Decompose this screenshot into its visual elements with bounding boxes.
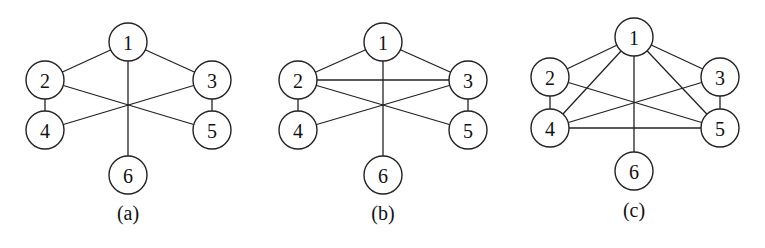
- node-label: 5: [715, 118, 725, 140]
- node-label: 6: [629, 161, 639, 183]
- graph-caption: (c): [623, 199, 645, 222]
- node-5: 5: [701, 109, 739, 147]
- node-1: 1: [364, 23, 402, 61]
- node-2: 2: [531, 58, 569, 96]
- node-label: 6: [378, 165, 388, 187]
- graph-a: 123456(a): [26, 23, 231, 225]
- node-label: 1: [629, 27, 639, 49]
- node-label: 3: [715, 67, 725, 89]
- node-3: 3: [449, 61, 487, 99]
- node-label: 4: [293, 120, 303, 142]
- node-label: 1: [378, 32, 388, 54]
- node-6: 6: [615, 152, 653, 190]
- node-label: 3: [207, 70, 217, 92]
- node-4: 4: [531, 109, 569, 147]
- graph-c: 123456(c): [531, 18, 739, 222]
- node-6: 6: [364, 156, 402, 194]
- node-5: 5: [449, 111, 487, 149]
- node-label: 2: [40, 70, 50, 92]
- node-label: 4: [40, 120, 50, 142]
- graph-b: 123456(b): [279, 23, 487, 225]
- node-4: 4: [26, 111, 64, 149]
- graph-caption: (a): [117, 202, 139, 225]
- node-6: 6: [109, 156, 147, 194]
- node-label: 4: [545, 118, 555, 140]
- node-label: 6: [123, 165, 133, 187]
- node-label: 5: [207, 120, 217, 142]
- node-label: 1: [123, 32, 133, 54]
- node-1: 1: [615, 18, 653, 56]
- node-2: 2: [279, 61, 317, 99]
- node-3: 3: [701, 58, 739, 96]
- node-label: 5: [463, 120, 473, 142]
- node-4: 4: [279, 111, 317, 149]
- node-5: 5: [193, 111, 231, 149]
- node-2: 2: [26, 61, 64, 99]
- node-label: 2: [293, 70, 303, 92]
- node-3: 3: [193, 61, 231, 99]
- node-label: 2: [545, 67, 555, 89]
- graph-caption: (b): [371, 202, 394, 225]
- graph-figure: 123456(a)123456(b)123456(c): [0, 0, 765, 248]
- node-label: 3: [463, 70, 473, 92]
- node-1: 1: [109, 23, 147, 61]
- graph-canvas: 123456(a)123456(b)123456(c): [0, 0, 765, 248]
